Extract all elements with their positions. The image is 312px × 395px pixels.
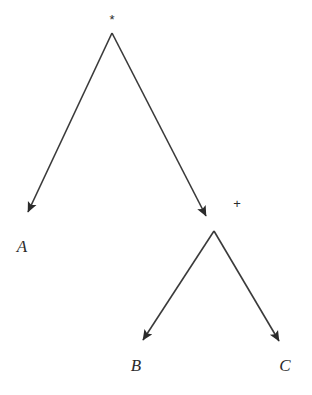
node-label-a: A <box>17 237 28 257</box>
edge-plus-to-c <box>214 231 279 341</box>
edge-plus-to-b <box>143 231 214 340</box>
edge-root-to-a <box>28 33 112 212</box>
node-label-b: B <box>131 356 142 376</box>
tree-graph-svg <box>0 0 312 395</box>
node-label-c: C <box>279 356 291 376</box>
node-label-root-multiply: * <box>109 13 114 26</box>
expression-tree-diagram: * A + B C <box>0 0 312 395</box>
node-label-plus: + <box>233 197 241 210</box>
edge-root-to-plus <box>112 33 206 216</box>
